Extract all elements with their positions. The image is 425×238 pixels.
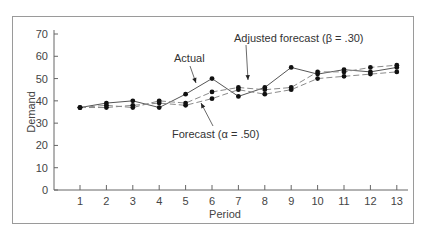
y-tick-label: 60 xyxy=(36,50,48,62)
data-point xyxy=(157,98,162,103)
data-point xyxy=(236,85,241,90)
data-point xyxy=(130,105,135,110)
arrow-adjusted-head xyxy=(246,75,250,80)
data-point xyxy=(262,92,267,97)
y-tick-label: 20 xyxy=(36,139,48,151)
data-point xyxy=(183,101,188,106)
y-tick-label: 70 xyxy=(36,28,48,40)
data-point xyxy=(394,63,399,68)
annotation-adjusted-forecast: Adjusted forecast (β = .30) xyxy=(234,32,364,44)
annotations: Adjusted forecast (β = .30) Actual Forec… xyxy=(172,32,364,140)
arrow-actual-head xyxy=(192,78,196,83)
y-tick-label: 30 xyxy=(36,117,48,129)
line-chart: 01020304050607012345678910111213 Adjuste… xyxy=(0,0,425,238)
arrow-adjusted xyxy=(246,45,248,80)
data-point xyxy=(289,65,294,70)
data-point xyxy=(157,105,162,110)
x-tick-label: 1 xyxy=(77,195,83,207)
y-tick-label: 10 xyxy=(36,162,48,174)
data-point xyxy=(236,94,241,99)
data-point xyxy=(394,69,399,74)
annotation-actual: Actual xyxy=(174,52,205,64)
x-tick-label: 5 xyxy=(183,195,189,207)
y-axis-title: Demand xyxy=(25,91,37,133)
data-point xyxy=(342,74,347,79)
annotation-forecast: Forecast (α = .50) xyxy=(172,128,259,140)
data-point xyxy=(210,76,215,81)
data-point xyxy=(183,92,188,97)
data-point xyxy=(368,65,373,70)
data-point xyxy=(104,103,109,108)
data-point xyxy=(130,98,135,103)
x-tick-label: 4 xyxy=(156,195,162,207)
data-point xyxy=(262,87,267,92)
x-tick-label: 12 xyxy=(364,195,376,207)
x-tick-label: 2 xyxy=(103,195,109,207)
data-point xyxy=(315,69,320,74)
data-point xyxy=(368,72,373,77)
y-tick-label: 40 xyxy=(36,95,48,107)
x-tick-label: 6 xyxy=(209,195,215,207)
x-tick-label: 9 xyxy=(288,195,294,207)
x-axis-title: Period xyxy=(209,208,241,220)
x-tick-label: 11 xyxy=(338,195,349,207)
axes: 01020304050607012345678910111213 xyxy=(36,28,408,207)
x-tick-label: 8 xyxy=(262,195,268,207)
data-point xyxy=(210,90,215,95)
y-tick-label: 0 xyxy=(42,184,48,196)
x-tick-label: 7 xyxy=(235,195,241,207)
data-point xyxy=(315,76,320,81)
x-tick-label: 13 xyxy=(391,195,403,207)
y-tick-label: 50 xyxy=(36,73,48,85)
series-group xyxy=(78,63,400,110)
data-point xyxy=(78,105,83,110)
data-point xyxy=(289,85,294,90)
data-point xyxy=(342,69,347,74)
x-tick-label: 10 xyxy=(311,195,323,207)
data-point xyxy=(210,96,215,101)
x-tick-label: 3 xyxy=(130,195,136,207)
